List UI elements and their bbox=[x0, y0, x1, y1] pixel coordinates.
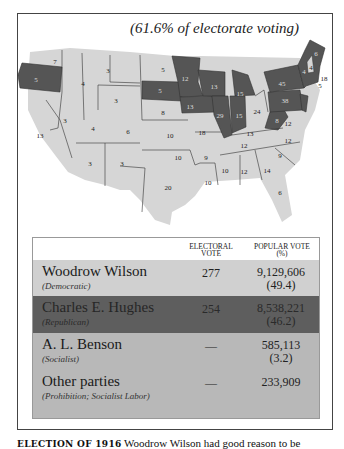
svg-text:8: 8 bbox=[161, 109, 165, 117]
popular-vote: 585,113 (3.2) bbox=[245, 339, 317, 365]
svg-text:12: 12 bbox=[182, 75, 190, 83]
svg-text:6: 6 bbox=[314, 50, 318, 58]
table-row: Other parties (Prohibition; Socialist La… bbox=[33, 370, 319, 418]
candidate-name: Other parties bbox=[42, 373, 120, 390]
header-text: VOTE bbox=[181, 250, 241, 257]
svg-text:18: 18 bbox=[199, 129, 207, 137]
svg-text:3: 3 bbox=[106, 67, 110, 75]
svg-text:4: 4 bbox=[302, 68, 306, 76]
svg-text:13: 13 bbox=[187, 103, 195, 111]
svg-text:38: 38 bbox=[282, 97, 290, 105]
popular-vote: 8,538,221 (46.2) bbox=[245, 302, 317, 328]
svg-text:4: 4 bbox=[309, 64, 313, 72]
svg-text:5: 5 bbox=[158, 87, 162, 95]
svg-text:29: 29 bbox=[217, 112, 225, 120]
popular-count: 233,909 bbox=[245, 376, 317, 389]
popular-percent: (46.2) bbox=[245, 315, 317, 328]
popular-vote: 233,909 bbox=[245, 376, 317, 389]
popular-percent: (49.4) bbox=[245, 279, 317, 292]
candidate-party: (Republican) bbox=[42, 317, 89, 327]
figure-caption: ELECTION OF 1916 Woodrow Wilson had good… bbox=[17, 437, 300, 449]
electoral-votes: — bbox=[181, 339, 241, 354]
svg-text:8: 8 bbox=[275, 117, 279, 125]
svg-text:3: 3 bbox=[88, 160, 92, 168]
svg-text:10: 10 bbox=[205, 179, 213, 187]
svg-text:14: 14 bbox=[264, 167, 272, 175]
svg-text:24: 24 bbox=[254, 108, 262, 116]
table-header: ELECTORAL VOTE POPULAR VOTE (%) bbox=[33, 238, 319, 260]
results-table: ELECTORAL VOTE POPULAR VOTE (%) Woodrow … bbox=[32, 237, 320, 419]
popular-vote: 9,129,606 (49.4) bbox=[245, 266, 317, 292]
svg-text:45: 45 bbox=[279, 80, 287, 88]
candidate-party: (Prohibition; Socialist Labor) bbox=[42, 391, 150, 401]
svg-text:6: 6 bbox=[126, 128, 130, 136]
table-row: A. L. Benson (Socialist) — 585,113 (3.2) bbox=[33, 333, 319, 371]
svg-text:4: 4 bbox=[91, 125, 95, 133]
svg-text:5: 5 bbox=[34, 76, 38, 84]
svg-text:3: 3 bbox=[114, 97, 118, 105]
svg-text:5: 5 bbox=[318, 82, 322, 90]
svg-text:9: 9 bbox=[204, 154, 208, 162]
svg-text:15: 15 bbox=[237, 90, 245, 98]
svg-text:12: 12 bbox=[285, 137, 293, 145]
candidate-name: Charles E. Hughes bbox=[42, 299, 154, 316]
svg-text:6: 6 bbox=[278, 189, 282, 197]
table-row: Charles E. Hughes (Republican) 254 8,538… bbox=[33, 296, 319, 333]
popular-percent: (3.2) bbox=[245, 352, 317, 365]
svg-text:10: 10 bbox=[222, 167, 230, 175]
popular-vote-header: POPULAR VOTE (%) bbox=[245, 243, 319, 257]
svg-text:13: 13 bbox=[247, 130, 255, 138]
candidate-name: A. L. Benson bbox=[42, 336, 122, 353]
state-south-dakota bbox=[142, 81, 182, 101]
table-row: Woodrow Wilson (Democratic) 277 9,129,60… bbox=[33, 260, 319, 296]
state-oregon bbox=[18, 63, 62, 92]
svg-text:15: 15 bbox=[236, 112, 244, 120]
turnout-subtitle: (61.6% of electorate voting) bbox=[130, 20, 299, 37]
header-text: (%) bbox=[245, 250, 319, 257]
svg-text:5: 5 bbox=[161, 66, 165, 74]
svg-text:13: 13 bbox=[211, 83, 219, 91]
svg-text:12: 12 bbox=[241, 168, 249, 176]
state-iowa bbox=[180, 96, 216, 113]
svg-text:10: 10 bbox=[175, 154, 183, 162]
caption-text: Woodrow Wilson had good reason to be bbox=[124, 437, 300, 449]
svg-text:3: 3 bbox=[63, 117, 67, 125]
caption-label: ELECTION OF 1916 bbox=[17, 439, 122, 449]
svg-text:3: 3 bbox=[120, 160, 124, 168]
svg-text:10: 10 bbox=[167, 132, 175, 140]
candidate-name: Woodrow Wilson bbox=[42, 263, 147, 280]
candidate-party: (Democratic) bbox=[42, 281, 90, 291]
svg-text:12: 12 bbox=[285, 120, 293, 128]
candidate-party: (Socialist) bbox=[42, 354, 79, 364]
svg-text:9: 9 bbox=[278, 152, 282, 160]
electoral-vote-header: ELECTORAL VOTE bbox=[181, 243, 241, 257]
svg-text:20: 20 bbox=[165, 184, 173, 192]
svg-text:13: 13 bbox=[37, 132, 45, 140]
electoral-votes: 254 bbox=[181, 302, 241, 317]
electoral-votes: — bbox=[181, 376, 241, 391]
svg-text:7: 7 bbox=[53, 58, 57, 66]
svg-text:4: 4 bbox=[81, 80, 85, 88]
svg-text:12: 12 bbox=[241, 142, 249, 150]
electoral-votes: 277 bbox=[181, 266, 241, 281]
